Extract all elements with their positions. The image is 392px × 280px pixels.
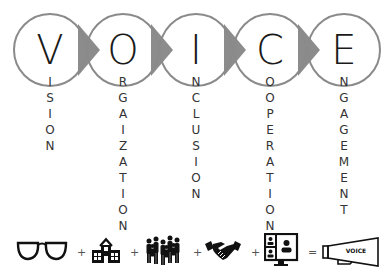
plus-operator: + — [77, 246, 86, 259]
school-building-icon — [90, 236, 122, 264]
crowd-people-icon — [144, 234, 184, 266]
letter-o: O — [93, 30, 153, 70]
megaphone-label: VOICE — [338, 247, 374, 254]
voice-diagram: V O I C E I S I O N R G A I Z A T I O N … — [0, 0, 392, 280]
word-cooperation: O O P E R A T I O N — [260, 74, 280, 234]
equals-operator: = — [308, 246, 317, 259]
eyeglasses-icon — [16, 240, 68, 262]
megaphone-icon: VOICE — [322, 236, 380, 268]
plus-operator: + — [251, 246, 260, 259]
plus-operator: + — [130, 246, 139, 259]
letter-v: V — [20, 30, 80, 70]
word-organization: R G A I Z A T I O N — [113, 74, 133, 234]
handshake-icon — [205, 238, 241, 262]
plus-operator: + — [193, 246, 202, 259]
video-conference-icon — [264, 233, 300, 269]
letter-e: E — [314, 30, 374, 70]
letter-i: I — [166, 30, 226, 70]
word-vision: I S I O N — [40, 74, 60, 154]
word-inclusion: N C L U S I O N — [186, 74, 206, 202]
word-engagement: N G A G E M E N T — [334, 74, 354, 218]
letter-c: C — [240, 30, 300, 70]
